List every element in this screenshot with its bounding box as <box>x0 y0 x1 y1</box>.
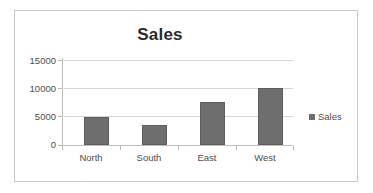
chart-title: Sales <box>15 25 305 45</box>
plot-area <box>62 60 293 145</box>
chart-frame[interactable]: Sales 15000 10000 5000 0 North South Eas… <box>14 10 358 182</box>
x-tick-mark-2 <box>178 146 179 150</box>
x-tick-mark-1 <box>120 146 121 150</box>
y-tick-label-15000: 15000 <box>12 56 56 66</box>
y-tick-label-5000: 5000 <box>12 112 56 122</box>
chart-legend[interactable]: Sales <box>309 111 342 122</box>
x-axis-label-east: East <box>178 152 236 163</box>
y-tick-label-0: 0 <box>12 140 56 150</box>
x-axis-label-south: South <box>120 152 178 163</box>
x-axis-label-west: West <box>236 152 294 163</box>
legend-label-sales: Sales <box>318 111 342 122</box>
x-axis-label-north: North <box>62 152 120 163</box>
x-tick-mark-4 <box>293 146 294 150</box>
bar-west[interactable] <box>258 88 283 145</box>
gridline-15000 <box>62 60 293 61</box>
legend-swatch-sales <box>309 114 315 120</box>
y-axis-tick-labels: 15000 10000 5000 0 <box>15 11 56 183</box>
x-tick-mark-3 <box>236 146 237 150</box>
bar-south[interactable] <box>142 125 167 145</box>
bar-east[interactable] <box>200 102 225 145</box>
bar-north[interactable] <box>84 117 109 145</box>
y-tick-label-10000: 10000 <box>12 84 56 94</box>
x-tick-mark-0 <box>62 146 63 150</box>
